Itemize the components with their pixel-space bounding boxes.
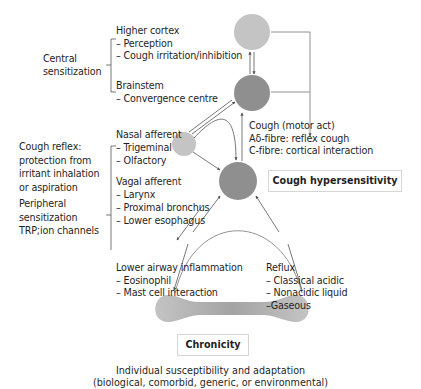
chronicity-box: Chronicity [177,334,249,356]
arrow-nasal-to-vagal [193,152,220,170]
lower-airway-text: Lower airway inflammation – Eosinophil –… [116,262,243,300]
vagal-afferent-node [219,162,257,200]
central-sensitization-label: Central sensitization [43,53,101,78]
curve-nasal-vagal [194,119,236,160]
footer-line-1: Individual susceptibility and adaptation [0,365,421,378]
footer-line-2: (biological, comorbid, generic, or envir… [0,377,421,389]
arrow-reflux-to-vagal [256,196,279,232]
brainstem-text: Brainstem – Convergence centre [116,80,218,105]
cough-hypersensitivity-box: Cough hypersensitivity [268,170,402,192]
cough-output-text: Cough (motor act) Aδ-fibre: reflex cough… [249,120,373,158]
brainstem-node [234,75,270,111]
peripheral-sensitization-label: Peripheral sensitization TRP;ion channel… [19,197,99,238]
nasal-afferent-text: Nasal afferent – Trigeminal – Olfactory [116,128,182,167]
higher-cortex-text: Higher cortex – Perception – Cough irrit… [116,25,242,63]
arrow-nasal-to-brainstem [192,102,235,134]
bracket-central [106,39,116,92]
bracket-peripheral [106,146,116,250]
reflux-text: Reflux – Classical acidic – Nonacidic li… [266,262,347,312]
vagal-afferent-text: Vagal afferent – Larynx – Proximal bronc… [116,175,209,227]
cough-reflex-label: Cough reflex: protection from irritant i… [19,140,99,194]
